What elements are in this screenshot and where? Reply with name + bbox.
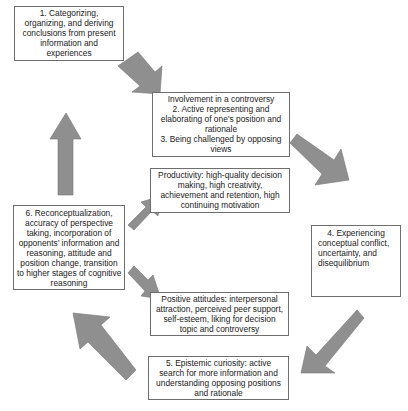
box-step6-line: position change, transition bbox=[17, 258, 121, 268]
box-step2-line: views bbox=[156, 144, 286, 154]
box-step1-line: 1. Categorizing, bbox=[18, 8, 120, 18]
box-step2-line: Involvement in a controversy bbox=[156, 94, 286, 104]
box-step1-line: conclusions from present bbox=[18, 28, 120, 38]
arrow-step5-to-step6 bbox=[73, 313, 136, 380]
box-positive-attitudes-line: attraction, perceived peer support, bbox=[154, 304, 285, 314]
box-step2-line: rationale bbox=[156, 124, 286, 134]
box-step6-line: 6. Reconceptualization, bbox=[17, 208, 121, 218]
box-step4-line: disequilibrium bbox=[318, 258, 394, 268]
box-step1-line: experiences bbox=[18, 48, 120, 58]
box-step4-line: 4. Experiencing bbox=[318, 228, 394, 238]
box-step4: 4. Experiencing conceptual conflict, unc… bbox=[311, 225, 401, 297]
box-step2-3: Involvement in a controversy 2. Active r… bbox=[152, 92, 290, 157]
arrow-step1-to-step2 bbox=[118, 52, 162, 94]
box-step1-line: information and bbox=[18, 38, 120, 48]
box-step4-line: conceptual conflict, bbox=[318, 238, 394, 248]
box-productivity-line: continuing motivation bbox=[154, 200, 286, 210]
box-step6-line: to higher stages of cognitive bbox=[17, 268, 121, 278]
arrow-step6-to-step1 bbox=[50, 113, 81, 195]
box-positive-attitudes-line: topic and controversy bbox=[154, 324, 285, 334]
box-step2-line: 3. Being challenged by opposing bbox=[156, 134, 286, 144]
box-productivity-line: achievement and retention, high bbox=[154, 190, 286, 200]
box-step6-line: reasoning, attitude and bbox=[17, 248, 121, 258]
box-positive-attitudes-line: self-esteem, liking for decision bbox=[154, 314, 285, 324]
box-step1: 1. Categorizing, organizing, and derivin… bbox=[14, 6, 124, 61]
box-step4-line: uncertainty, and bbox=[318, 248, 394, 258]
box-step5-line: and rationale bbox=[152, 388, 285, 398]
arrow-step2-to-step4 bbox=[290, 134, 349, 185]
box-step6-line: taking, incorporation of bbox=[17, 228, 121, 238]
box-positive-attitudes: Positive attitudes: interpersonal attrac… bbox=[150, 292, 289, 336]
box-step6-line: accuracy of perspective bbox=[17, 218, 121, 228]
box-step5: 5. Epistemic curiosity: active search fo… bbox=[148, 356, 289, 400]
box-step6-line: opponents’ information and bbox=[17, 238, 121, 248]
box-step5-line: search for more information and bbox=[152, 368, 285, 378]
box-step2-line: elaborating of one’s position and bbox=[156, 114, 286, 124]
box-productivity: Productivity: high-quality decision maki… bbox=[150, 168, 290, 213]
box-positive-attitudes-line: Positive attitudes: interpersonal bbox=[154, 294, 285, 304]
box-productivity-line: making, high creativity, bbox=[154, 180, 286, 190]
box-step6: 6. Reconceptualization, accuracy of pers… bbox=[13, 205, 125, 290]
arrow-step4-to-step5 bbox=[301, 310, 364, 373]
box-step1-line: organizing, and deriving bbox=[18, 18, 120, 28]
box-productivity-line: Productivity: high-quality decision bbox=[154, 170, 286, 180]
box-step5-line: understanding opposing positions bbox=[152, 378, 285, 388]
box-step5-line: 5. Epistemic curiosity: active bbox=[152, 358, 285, 368]
box-step6-line: reasoning bbox=[17, 278, 121, 288]
box-step2-line: 2. Active representing and bbox=[156, 104, 286, 114]
